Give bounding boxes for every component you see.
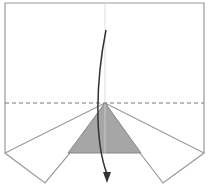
arrow-head-icon [103, 172, 111, 183]
origami-diagram [0, 0, 209, 190]
